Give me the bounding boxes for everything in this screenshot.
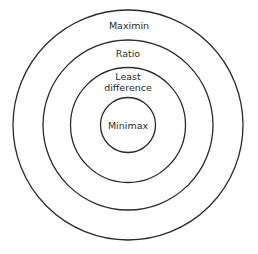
label-least: Least bbox=[115, 71, 141, 82]
label-minimax: Minimax bbox=[108, 120, 149, 131]
label-maximin: Maximin bbox=[109, 20, 149, 31]
concentric-circles-diagram: Maximin Ratio Least difference Minimax bbox=[0, 0, 258, 254]
label-difference: difference bbox=[104, 82, 152, 93]
label-ratio: Ratio bbox=[116, 48, 141, 59]
